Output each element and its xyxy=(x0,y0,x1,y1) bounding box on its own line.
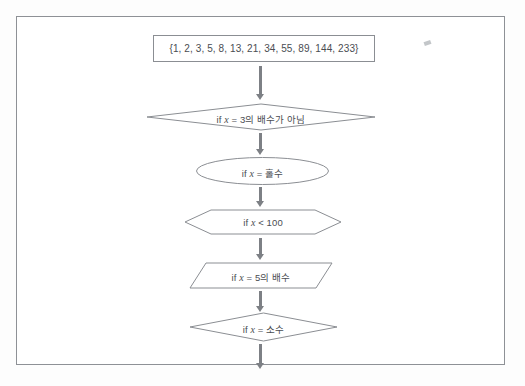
arrow-stem xyxy=(259,66,262,94)
node-condition-odd[interactable]: if x = 홀수 xyxy=(196,157,329,185)
arrow-down-5 xyxy=(256,291,265,312)
node-input-set-label: {1, 2, 3, 5, 8, 13, 21, 34, 55, 89, 144,… xyxy=(154,43,374,54)
diamond-shape-icon xyxy=(147,104,375,130)
arrow-down-2 xyxy=(256,133,265,155)
arrow-head-icon xyxy=(256,149,264,155)
scanned-page: {1, 2, 3, 5, 8, 13, 21, 34, 55, 89, 144,… xyxy=(0,0,525,386)
parallelogram-shape-icon xyxy=(190,262,332,289)
arrow-stem xyxy=(259,344,262,363)
arrow-head-icon xyxy=(256,254,264,260)
node-input-set[interactable]: {1, 2, 3, 5, 8, 13, 21, 34, 55, 89, 144,… xyxy=(153,35,375,62)
arrow-head-icon xyxy=(256,94,264,100)
arrow-head-icon xyxy=(256,306,264,312)
arrow-stem xyxy=(259,133,262,149)
arrow-down-1 xyxy=(256,66,265,100)
node-decision-prime[interactable]: if x = 소수 xyxy=(190,313,337,341)
arrow-stem xyxy=(259,291,262,306)
arrow-head-icon xyxy=(256,363,264,369)
node-decision-not-multiple-of-3[interactable]: if x = 3의 배수가 아님 xyxy=(147,104,375,130)
arrow-head-icon xyxy=(256,201,264,207)
hexagon-shape-icon xyxy=(185,209,341,235)
arrow-down-3 xyxy=(256,187,265,207)
diamond-shape-icon xyxy=(190,313,337,341)
arrow-down-6 xyxy=(256,344,265,370)
flowchart-canvas: {1, 2, 3, 5, 8, 13, 21, 34, 55, 89, 144,… xyxy=(16,16,505,365)
arrow-stem xyxy=(259,187,262,201)
arrow-stem xyxy=(259,238,262,254)
arrow-down-4 xyxy=(256,238,265,260)
ellipse-shape-icon xyxy=(196,157,329,185)
node-condition-multiple-of-5[interactable]: if x = 5의 배수 xyxy=(190,262,332,289)
node-condition-less-than-100[interactable]: if x < 100 xyxy=(185,209,341,235)
